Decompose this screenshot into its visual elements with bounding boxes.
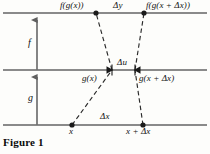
chain-rule-diagram xyxy=(0,0,210,154)
label-g-of-x-plus-dx: g(x + Δx) xyxy=(139,74,174,83)
label-x: x xyxy=(69,127,73,136)
dash-gx-to-fgx xyxy=(96,13,112,70)
label-f-of-g-of-x: f(g(x)) xyxy=(60,1,84,10)
dash-gxdx-to-fgxdx xyxy=(135,13,144,70)
label-g-of-x: g(x) xyxy=(82,74,97,83)
label-f-of-g-of-x-plus-dx: f(g(x + Δx)) xyxy=(146,1,190,10)
figure-caption: Figure 1 xyxy=(3,136,44,148)
node-fgx-dx xyxy=(141,10,146,15)
label-x-plus-dx: x + Δx xyxy=(126,127,150,136)
label-band-f: f xyxy=(28,38,31,48)
label-delta-y: Δy xyxy=(113,1,122,10)
label-delta-x: Δx xyxy=(100,112,109,121)
node-fgx xyxy=(93,10,98,15)
label-delta-u: Δu xyxy=(117,58,127,67)
figure-container: f(g(x)) Δy f(g(x + Δx)) Δu g(x) g(x + Δx… xyxy=(0,0,210,154)
axis-lines xyxy=(3,13,207,125)
label-band-g: g xyxy=(28,93,33,103)
